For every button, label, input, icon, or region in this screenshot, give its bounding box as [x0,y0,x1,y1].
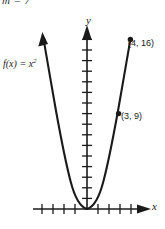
function-label-exponent: 2 [33,57,37,65]
x-axis-arrowhead [137,205,151,214]
curve-left-arrowhead [38,32,48,47]
clipped-header-text: m = 7 [2,0,30,6]
parabola-figure: m = 7 f(x) = x2 y x (4, 16) (3, 9) [0,0,165,229]
point-label-3-9: (3, 9) [121,111,142,121]
point-label-4-16: (4, 16) [128,38,154,48]
function-label-text: f(x) = x [3,58,33,69]
function-label: f(x) = x2 [3,57,37,69]
y-axis-arrowhead [83,25,92,39]
x-axis-label: x [152,200,157,212]
y-axis-label: y [86,14,91,26]
